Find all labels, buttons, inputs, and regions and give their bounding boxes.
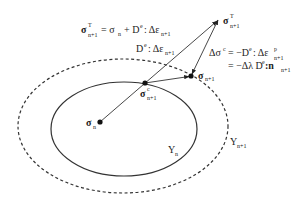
equation-elastic-increment: D e : Δε n+1	[136, 42, 174, 56]
svg-text:+ D: + D	[124, 24, 139, 35]
point-sigma-c	[142, 80, 147, 85]
svg-text:e: e	[249, 46, 252, 52]
svg-text:= −Δλ D: = −Δλ D	[228, 60, 263, 71]
svg-text:n+1: n+1	[165, 50, 174, 56]
svg-text:D: D	[136, 43, 143, 54]
yield-surface-n	[51, 82, 197, 176]
svg-text:= σ: = σ	[101, 24, 115, 35]
svg-text:: Δε: : Δε	[144, 24, 159, 35]
svg-text:: Δε: : Δε	[148, 43, 163, 54]
svg-text:σ: σ	[140, 88, 146, 99]
equation-correction-2: = −Δλ D e :n n+1	[228, 59, 290, 73]
label-sigma-c: σ c n+1	[140, 86, 156, 101]
svg-text:c: c	[147, 86, 150, 92]
svg-text:: Δε: : Δε	[253, 47, 268, 58]
svg-text:n+1: n+1	[230, 23, 239, 29]
svg-text:n+1: n+1	[281, 67, 290, 73]
equation-trial-stress: σ T n+1 = σ n + D e : Δε n+1	[81, 22, 170, 38]
svg-text:σ: σ	[81, 24, 87, 35]
svg-text:c: c	[223, 46, 226, 52]
svg-text:n: n	[118, 31, 121, 37]
label-sigma-n: σ n	[86, 117, 96, 130]
label-yield-n: Y n	[168, 144, 178, 157]
svg-text:Δσ: Δσ	[209, 47, 221, 58]
point-sigma-n	[97, 119, 102, 124]
label-sigma-trial: σ T n+1	[223, 13, 239, 29]
svg-text:T: T	[230, 13, 234, 19]
svg-text:σ: σ	[198, 70, 204, 81]
svg-text:n: n	[93, 124, 96, 130]
equation-correction-1: Δσ c = −D e : Δε p n+1	[209, 46, 283, 61]
point-sigma-n1	[188, 73, 193, 78]
svg-text:n+1: n+1	[274, 55, 283, 61]
svg-text:n+1: n+1	[161, 31, 170, 37]
svg-text:e: e	[144, 42, 147, 48]
svg-text:p: p	[274, 46, 277, 52]
label-yield-n1: Y n+1	[230, 136, 246, 149]
svg-text:σ: σ	[86, 117, 92, 128]
return-mapping-diagram: σ n σ c n+1 σ n+1 σ T n+1 Y n Y n+1 σ T …	[0, 0, 298, 202]
svg-text:n+1: n+1	[237, 143, 246, 149]
svg-text:n: n	[175, 151, 178, 157]
svg-text::n: :n	[265, 60, 274, 71]
svg-text:T: T	[88, 22, 92, 28]
svg-text:n+1: n+1	[88, 32, 97, 38]
svg-text:n+1: n+1	[205, 76, 214, 82]
label-sigma-n1: σ n+1	[198, 70, 214, 82]
svg-text:σ: σ	[223, 15, 229, 26]
svg-text:e: e	[140, 23, 143, 29]
svg-text:= −D: = −D	[228, 47, 249, 58]
svg-text:n+1: n+1	[147, 95, 156, 101]
